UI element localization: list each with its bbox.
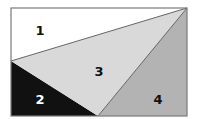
region-label-2: 2 (35, 93, 44, 106)
region-label-4: 4 (153, 93, 162, 106)
region-label-3: 3 (94, 65, 103, 78)
region-label-1: 1 (35, 24, 44, 37)
diagram-canvas (0, 0, 198, 119)
